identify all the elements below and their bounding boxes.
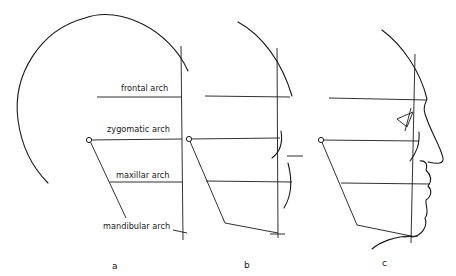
zygomatic-arch-line (321, 140, 419, 141)
panel-c: c (318, 30, 443, 268)
skull-outline-arc (17, 15, 188, 183)
panel-label-b: b (244, 260, 250, 270)
condyle-point (318, 137, 323, 142)
zygomatic-arch-line (189, 138, 280, 139)
forehead-profile (382, 30, 443, 163)
frontal-arch-line (329, 98, 427, 100)
facial-arches-diagram: frontal arch zygomatic arch maxillar arc… (0, 0, 456, 276)
frontal-arch-label: frontal arch (121, 83, 168, 93)
maxillar-arch-line (206, 181, 292, 182)
zygomatic-arch-label: zygomatic arch (107, 124, 170, 134)
mandibular-arch-label: mandibular arch (103, 221, 170, 231)
panel-b: b (186, 22, 303, 270)
forehead-arc (238, 22, 292, 96)
mandible-outline (321, 140, 411, 236)
maxillar-arch-label: maxillar arch (116, 170, 170, 180)
eye-triangle (397, 112, 413, 127)
neck-curve (372, 236, 412, 249)
panel-a: frontal arch zygomatic arch maxillar arc… (17, 15, 188, 271)
vertical-reference-line (181, 46, 183, 240)
vertical-reference-line (411, 54, 415, 243)
cheek-arc (410, 132, 419, 161)
vertical-reference-line (277, 48, 278, 238)
condyle-point (86, 137, 91, 142)
mandible-outline (189, 139, 278, 233)
condyle-point (186, 136, 191, 141)
zygomatic-arch-line (90, 139, 182, 140)
mandibular-tick (173, 230, 187, 233)
maxillar-arch-line (341, 183, 430, 184)
panel-label-a: a (112, 261, 118, 271)
lips-profile (412, 161, 431, 237)
cheek-arc (272, 131, 282, 158)
maxillar-arc (284, 163, 291, 208)
panel-label-c: c (382, 258, 387, 268)
